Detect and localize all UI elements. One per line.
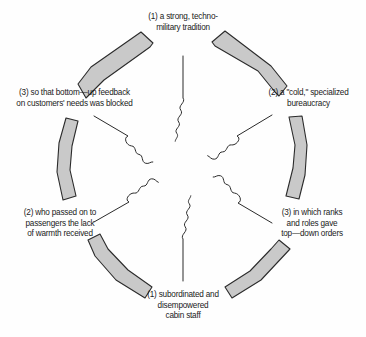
node-label-bottom-left: (2) who passed on to passengers the lack… xyxy=(3,208,117,240)
node-label-bottom-right: (3) in which ranks and roles gave top—do… xyxy=(258,208,366,240)
node-label-top-left: (3) so that bottom—up feedback on custom… xyxy=(2,88,147,109)
cycle-diagram: (1) a strong, techno- military tradition… xyxy=(0,0,366,337)
arc-segment-top-right xyxy=(212,31,287,96)
arc-segment-left xyxy=(57,118,78,200)
node-label-top-right: (2) a "cold," specialized bureaucracy xyxy=(251,88,366,109)
arc-segment-right xyxy=(286,116,307,199)
node-label-top: (1) a strong, techno- military tradition xyxy=(117,12,249,33)
spoke-top xyxy=(175,56,184,141)
spoke-top-left xyxy=(94,116,153,163)
arc-segment-bottom-left xyxy=(88,234,152,298)
cycle-diagram-graphics xyxy=(0,0,366,337)
spoke-top-right xyxy=(208,115,272,159)
node-label-bottom: (1) subordinated and disempowered cabin … xyxy=(118,290,248,322)
spoke-bottom xyxy=(182,196,191,281)
